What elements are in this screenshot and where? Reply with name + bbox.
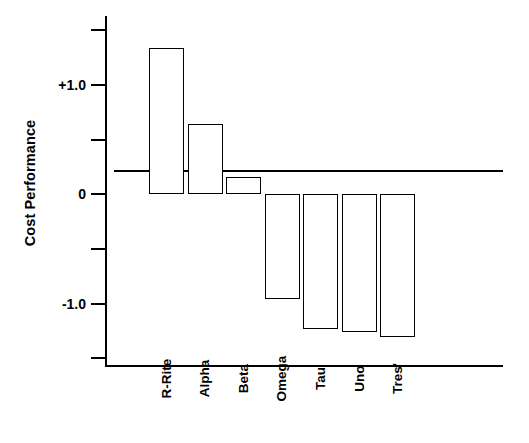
y-axis-title-text: Cost Performance <box>22 119 38 246</box>
y-tick-2 <box>91 139 106 141</box>
bar-r-rite <box>149 48 184 195</box>
x-axis-category-labels: R-RiteAlphaBetaOmegaTauUnoTres' <box>105 367 503 443</box>
y-tick-label-1: +1.0 <box>40 77 86 93</box>
y-tick-label-3: 0 <box>40 186 86 202</box>
x-label-text-3: Omega <box>275 356 290 402</box>
x-category-label-tres: Tres' <box>380 371 415 441</box>
x-category-label-r-rite: R-Rite <box>149 371 184 441</box>
y-tick-5 <box>91 303 106 305</box>
x-category-label-uno: Uno <box>342 371 377 441</box>
x-category-label-omega: Omega <box>265 371 300 441</box>
plot-area <box>105 16 503 367</box>
x-label-text-1: Alpha <box>198 360 213 398</box>
bar-tau <box>303 194 338 328</box>
x-label-text-2: Beta <box>236 364 251 393</box>
y-axis-title: Cost Performance <box>0 0 60 365</box>
x-label-text-4: Tau <box>313 367 328 390</box>
y-tick-0 <box>91 29 106 31</box>
x-category-label-alpha: Alpha <box>188 371 223 441</box>
x-category-label-tau: Tau <box>303 371 338 441</box>
bar-chart-figure: Cost Performance +1.00-1.0 R-RiteAlphaBe… <box>0 0 529 443</box>
y-tick-6 <box>91 357 106 359</box>
y-tick-label-5: -1.0 <box>40 296 86 312</box>
y-axis-tick-labels: +1.00-1.0 <box>40 0 86 443</box>
bar-uno <box>342 194 377 332</box>
x-category-label-beta: Beta <box>226 371 261 441</box>
bar-tres <box>380 194 415 337</box>
x-label-text-0: R-Rite <box>159 359 174 399</box>
x-label-text-5: Uno <box>352 365 367 391</box>
bar-alpha <box>188 124 223 194</box>
y-tick-3 <box>91 193 106 195</box>
y-tick-4 <box>91 248 106 250</box>
x-label-text-6: Tres' <box>390 363 405 394</box>
bar-beta <box>226 177 261 194</box>
y-tick-1 <box>91 84 106 86</box>
bar-omega <box>265 194 300 299</box>
